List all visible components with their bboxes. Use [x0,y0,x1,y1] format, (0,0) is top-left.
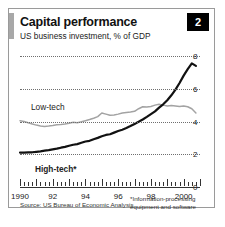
x-tick [184,179,185,186]
series-label-low-tech: Low-tech [31,102,65,112]
x-tick [106,182,107,186]
x-tick [147,182,148,186]
x-tick [110,182,111,186]
x-tick [192,182,193,186]
x-tick [36,179,37,186]
x-tick [175,182,176,186]
title-accent-bar [9,13,14,39]
x-tick [102,179,103,186]
x-axis-label-94: 94 [81,192,90,201]
x-tick [49,182,50,186]
x-tick [118,179,119,186]
x-tick [139,182,140,186]
x-tick [114,182,115,186]
x-tick [32,182,33,186]
x-tick [163,182,164,186]
y-axis-label-6: 6 [193,84,207,93]
gridline-8 [20,56,200,57]
x-tick [167,179,168,186]
x-axis-line [20,187,200,188]
chart-svg [20,49,200,179]
x-tick [40,182,41,186]
x-tick [61,182,62,186]
footnote-line-1: *Information-processing [130,195,208,203]
footnote: *Information-processing equipment and so… [130,195,208,210]
x-axis-label-96: 96 [114,192,123,201]
x-tick [45,182,46,186]
x-axis-label-1990: 1990 [11,192,29,201]
x-tick [155,182,156,186]
gridline-2 [20,154,200,155]
x-tick [90,182,91,186]
x-tick [196,182,197,186]
x-tick [20,179,21,186]
chart-card: Capital performance US business investme… [8,8,215,208]
x-axis-label-92: 92 [48,192,57,201]
x-tick [130,182,131,186]
x-tick [171,182,172,186]
chart-subtitle: US business investment, % of GDP [20,31,151,41]
x-tick [151,179,152,186]
x-tick [98,182,99,186]
x-tick [77,182,78,186]
x-tick [94,182,95,186]
x-tick [180,182,181,186]
gridline-6 [20,89,200,90]
x-tick [143,182,144,186]
x-tick [188,182,189,186]
plot-area [20,49,200,179]
x-tick [73,182,74,186]
y-axis-label-8: 8 [193,52,207,61]
footnote-line-2: equipment and software [130,203,208,211]
x-tick [122,182,123,186]
x-tick [135,179,136,186]
gridline-4 [20,122,200,123]
y-axis-label-4: 4 [193,117,207,126]
chart-number-label: 2 [187,13,209,31]
chart-number-badge: 2 [187,13,209,31]
x-tick [159,182,160,186]
x-tick [53,179,54,186]
x-tick [85,179,86,186]
page-title: Capital performance [20,15,137,29]
series-label-high-tech: High-tech* [35,164,77,174]
y-axis-label-2: 2 [193,150,207,159]
x-tick [28,182,29,186]
x-tick [65,182,66,186]
x-tick [81,182,82,186]
x-tick [69,179,70,186]
x-tick [200,179,201,186]
x-tick [57,182,58,186]
x-tick [126,182,127,186]
x-tick [24,182,25,186]
source-note: Source: US Bureau of Economic Analysis [20,201,134,208]
